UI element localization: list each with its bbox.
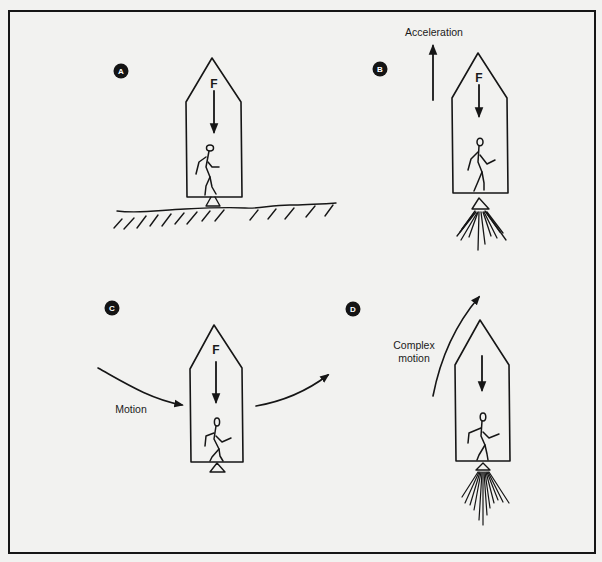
person-icon xyxy=(468,413,499,460)
force-label: F xyxy=(212,343,219,357)
complex-motion-label-line-1: Complex xyxy=(393,339,435,351)
panel-d: D Complex motion xyxy=(346,297,511,525)
exhaust-flame-icon xyxy=(457,211,506,250)
panel-b: B Acceleration F xyxy=(373,26,509,250)
panel-marker-d: D xyxy=(346,302,361,317)
panel-a: A F xyxy=(114,58,337,229)
complex-motion-label-line-2: motion xyxy=(398,352,430,364)
acceleration-label: Acceleration xyxy=(405,26,463,38)
person-icon xyxy=(468,138,495,191)
force-label: F xyxy=(210,77,217,91)
exhaust-flame-icon xyxy=(462,472,509,525)
marker-label: C xyxy=(109,304,115,313)
diagram-canvas: A F xyxy=(0,0,602,562)
marker-label: B xyxy=(377,65,383,74)
marker-label: A xyxy=(118,67,124,76)
incoming-motion-arrow-icon xyxy=(98,368,182,405)
panel-c: C Motion F xyxy=(98,301,328,473)
person-icon xyxy=(205,418,231,461)
panel-marker-a: A xyxy=(114,64,129,79)
panel-marker-b: B xyxy=(373,62,388,77)
exhaust-nozzle-icon xyxy=(476,463,490,470)
figure-frame xyxy=(9,11,595,553)
force-label: F xyxy=(475,71,482,85)
launch-pad-icon xyxy=(210,463,225,472)
person-icon xyxy=(196,145,219,195)
panel-marker-c: C xyxy=(105,301,120,316)
ground-icon xyxy=(114,203,336,229)
complex-motion-arrow-icon xyxy=(433,297,479,396)
exhaust-nozzle-icon xyxy=(472,198,489,209)
outgoing-motion-arrow-icon xyxy=(256,375,328,406)
marker-label: D xyxy=(350,305,356,314)
motion-label: Motion xyxy=(115,403,147,415)
launch-pad-icon xyxy=(206,197,220,206)
